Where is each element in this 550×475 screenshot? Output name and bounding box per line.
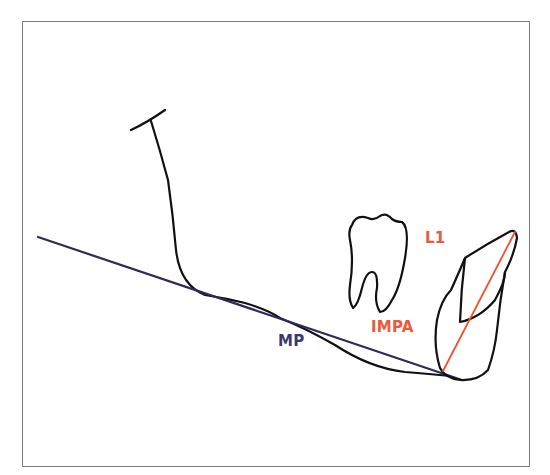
l1-label: L1 bbox=[425, 229, 445, 247]
mandibular-plane-line bbox=[38, 237, 462, 380]
molar-tooth bbox=[349, 215, 407, 312]
impa-label: IMPA bbox=[371, 318, 414, 336]
mp-label: MP bbox=[278, 332, 304, 350]
incisor-long-axis bbox=[443, 232, 515, 371]
cephalometric-diagram bbox=[0, 0, 550, 475]
